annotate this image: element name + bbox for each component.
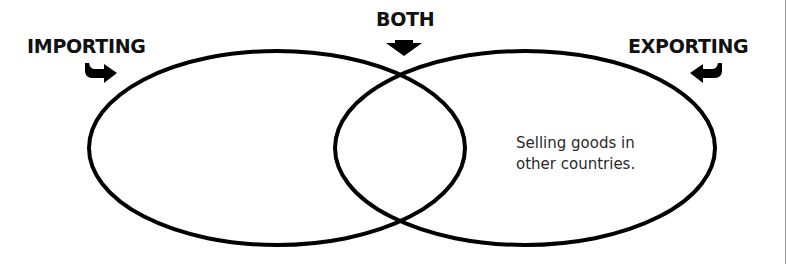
both-label: BOTH [376,10,434,29]
left-circle-importing [89,51,465,245]
exporting-description: Selling goods in other countries. [516,133,635,175]
exporting-label: EXPORTING [628,37,748,56]
exporting-description-line-1: Selling goods in [516,133,635,154]
importing-label: IMPORTING [27,37,146,56]
curved-arrow-right-icon [85,63,117,83]
exporting-description-line-2: other countries. [516,154,635,175]
curved-arrow-left-icon [690,63,722,83]
page-edge-divider [785,0,786,264]
venn-diagram: IMPORTING BOTH EXPORTING Selling goods i… [0,0,787,264]
arrow-down-icon [386,40,422,56]
